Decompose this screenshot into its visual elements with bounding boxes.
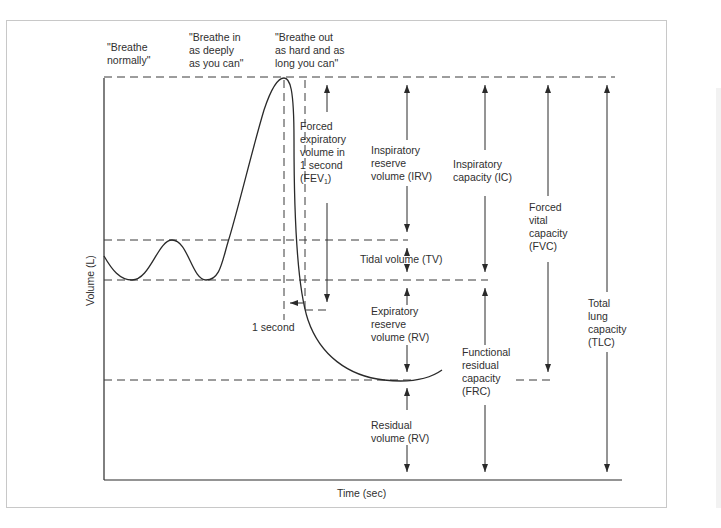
label-irv: Inspiratory reserve volume (IRV) bbox=[371, 144, 432, 183]
label-one-second: 1 second bbox=[252, 321, 295, 334]
label-ic: Inspiratory capacity (IC) bbox=[453, 158, 512, 184]
label-tidal-volume: Tidal volume (TV) bbox=[360, 253, 442, 266]
label-tlc: Total lung capacity (TLC) bbox=[588, 297, 627, 349]
label-frc: Functional residual capacity (FRC) bbox=[462, 346, 510, 398]
axes bbox=[104, 78, 622, 480]
label-fvc: Forced vital capacity (FVC) bbox=[529, 201, 568, 253]
label-erv: Expiratory reserve volume (RV) bbox=[371, 305, 429, 344]
label-breathe-out: "Breathe out as hard and as long you can… bbox=[275, 31, 344, 70]
y-axis-label: Volume (L) bbox=[84, 255, 96, 306]
x-axis-label: Time (sec) bbox=[337, 487, 386, 500]
label-residual-volume: Residual volume (RV) bbox=[371, 419, 429, 445]
label-fev1: Forced expiratory volume in 1 second (FE… bbox=[300, 120, 346, 188]
label-breathe-in: "Breathe in as deeply as you can" bbox=[189, 31, 244, 70]
label-breathe-normally: "Breathe normally" bbox=[107, 41, 150, 67]
